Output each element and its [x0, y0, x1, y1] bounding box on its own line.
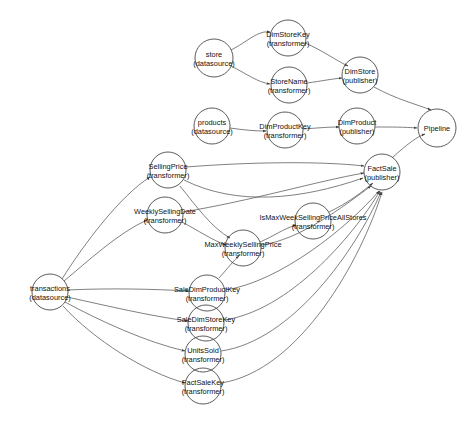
node-kind-MaxWeeklySellingPrice: (transformer): [222, 249, 265, 258]
node-label-SaleDimProductKey: SaleDimProductKey(transformer): [174, 285, 240, 303]
node-name-WeeklySellingDate: WeeklySellingDate: [134, 207, 196, 216]
edge-DimProduct-to-Pipeline: [375, 127, 417, 128]
edge-transactions-to-SaleDimStoreKey: [67, 297, 188, 321]
node-name-transactions: transactions: [30, 284, 70, 293]
node-label-StoreName: StoreName(transformer): [268, 77, 311, 95]
graph-node-WeeklySellingDate[interactable]: WeeklySellingDate(transformer): [134, 197, 196, 233]
node-name-DimStore: DimStore: [345, 67, 376, 76]
node-kind-DimStore: (publisher): [343, 76, 378, 85]
node-name-SellingPrice: SellingPrice: [148, 162, 187, 171]
node-label-DimStoreKey: DimStoreKey(transformer): [266, 30, 310, 48]
edge-SellingPrice-to-FactSale: [186, 163, 364, 167]
node-kind-transactions: (datasource): [29, 293, 71, 302]
graph-canvas: store(datasource)DimStoreKey(transformer…: [0, 0, 474, 424]
node-name-Pipeline: Pipeline: [424, 124, 450, 133]
graph-node-DimProduct[interactable]: DimProduct(publisher): [338, 108, 377, 144]
node-name-DimProductKey: DimProductKey: [259, 122, 311, 131]
node-name-store: store: [206, 50, 222, 59]
graph-node-FactSaleKey[interactable]: FactSaleKey(transformer): [182, 368, 225, 404]
node-kind-WeeklySellingDate: (transformer): [144, 216, 187, 225]
node-kind-SaleDimProductKey: (transformer): [186, 294, 229, 303]
node-name-StoreName: StoreName: [270, 77, 307, 86]
graph-node-DimStore[interactable]: DimStore(publisher): [342, 57, 378, 93]
node-kind-UnitsSold: (transformer): [182, 355, 225, 364]
edge-transactions-to-WeeklySellingDate: [64, 220, 147, 281]
node-label-Pipeline: Pipeline: [424, 124, 450, 133]
edge-store-to-DimStoreKey: [231, 32, 270, 50]
graph-node-UnitsSold[interactable]: UnitsSold(transformer): [182, 336, 225, 372]
graph-node-MaxWeeklySellingPrice[interactable]: MaxWeeklySellingPrice(transformer): [204, 230, 281, 266]
graph-node-FactSale[interactable]: FactSale(publisher): [364, 154, 400, 190]
node-label-DimStore: DimStore(publisher): [343, 67, 378, 85]
node-kind-FactSale: (publisher): [365, 173, 400, 182]
edge-StoreName-to-DimStore: [307, 78, 342, 83]
graph-node-products[interactable]: products(datasource): [191, 108, 233, 144]
node-kind-StoreName: (transformer): [268, 86, 311, 95]
node-label-SellingPrice: SellingPrice(transformer): [147, 162, 190, 180]
node-kind-store: (datasource): [193, 59, 235, 68]
graph-node-DimStoreKey[interactable]: DimStoreKey(transformer): [266, 20, 310, 56]
node-label-WeeklySellingDate: WeeklySellingDate(transformer): [134, 207, 196, 225]
node-label-MaxWeeklySellingPrice: MaxWeeklySellingPrice(transformer): [204, 240, 281, 258]
node-layer: store(datasource)DimStoreKey(transformer…: [29, 20, 456, 404]
graph-node-SellingPrice[interactable]: SellingPrice(transformer): [147, 152, 190, 188]
node-name-MaxWeeklySellingPrice: MaxWeeklySellingPrice: [204, 240, 281, 249]
node-kind-products: (datasource): [191, 127, 233, 136]
node-label-IsMaxWeekSellingPriceAllStores: IsMaxWeekSellingPriceAllStores(transform…: [259, 213, 366, 231]
graph-node-Pipeline[interactable]: Pipeline: [418, 109, 456, 147]
node-name-products: products: [198, 118, 227, 127]
node-label-FactSaleKey: FactSaleKey(transformer): [182, 378, 225, 396]
graph-node-transactions[interactable]: transactions(datasource): [29, 274, 71, 310]
edge-WeeklySellingDate-to-FactSale: [183, 173, 364, 212]
node-name-UnitsSold: UnitsSold: [187, 346, 219, 355]
node-kind-SellingPrice: (transformer): [147, 171, 190, 180]
edge-SellingPrice-to-FactSale: [184, 178, 363, 197]
node-label-DimProductKey: DimProductKey(transformer): [259, 122, 311, 140]
node-name-DimStoreKey: DimStoreKey: [266, 30, 310, 39]
node-kind-SaleDimStoreKey: (transformer): [185, 324, 228, 333]
graph-node-IsMaxWeekSellingPriceAllStores[interactable]: IsMaxWeekSellingPriceAllStores(transform…: [259, 203, 366, 239]
node-kind-DimProductKey: (transformer): [264, 131, 307, 140]
graph-node-store[interactable]: store(datasource): [193, 39, 235, 77]
node-label-UnitsSold: UnitsSold(transformer): [182, 346, 225, 364]
node-kind-IsMaxWeekSellingPriceAllStores: (transformer): [292, 222, 335, 231]
node-label-DimProduct: DimProduct(publisher): [338, 118, 377, 136]
edge-store-to-StoreName: [231, 66, 270, 84]
graph-node-StoreName[interactable]: StoreName(transformer): [268, 67, 311, 103]
edge-FactSale-to-Pipeline: [392, 134, 425, 158]
edge-DimStore-to-Pipeline: [374, 87, 431, 110]
node-name-DimProduct: DimProduct: [338, 118, 377, 127]
edge-DimStoreKey-to-DimStore: [305, 43, 348, 66]
node-kind-FactSaleKey: (transformer): [182, 387, 225, 396]
node-label-SaleDimStoreKey: SaleDimStoreKey(transformer): [177, 315, 236, 333]
node-name-FactSaleKey: FactSaleKey: [182, 378, 224, 387]
node-name-SaleDimProductKey: SaleDimProductKey: [174, 285, 240, 294]
node-name-FactSale: FactSale: [367, 164, 396, 173]
node-name-SaleDimStoreKey: SaleDimStoreKey: [177, 315, 236, 324]
pipeline-dependency-graph: store(datasource)DimStoreKey(transformer…: [0, 0, 474, 424]
edge-IsMaxWeekSellingPriceAllStores-to-FactSale: [329, 183, 373, 212]
node-label-transactions: transactions(datasource): [29, 284, 71, 302]
node-label-FactSale: FactSale(publisher): [365, 164, 400, 182]
edge-transactions-to-SellingPrice: [62, 177, 150, 279]
node-kind-DimProduct: (publisher): [340, 127, 375, 136]
graph-node-DimProductKey[interactable]: DimProductKey(transformer): [259, 112, 311, 148]
node-kind-DimStoreKey: (transformer): [267, 39, 310, 48]
node-name-IsMaxWeekSellingPriceAllStores: IsMaxWeekSellingPriceAllStores: [259, 213, 366, 222]
edge-transactions-to-SaleDimProductKey: [68, 289, 189, 291]
graph-node-SaleDimStoreKey[interactable]: SaleDimStoreKey(transformer): [177, 305, 236, 341]
